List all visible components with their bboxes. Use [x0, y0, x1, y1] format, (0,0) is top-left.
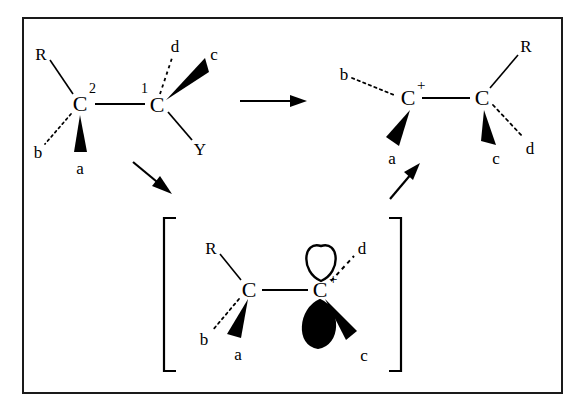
reactant-atom-c2: C [73, 93, 88, 115]
scan-artifact-right: ···· ········ ·· ····· [290, 0, 365, 3]
product-atom-c-right: C [475, 87, 490, 109]
reactant-label-a: a [76, 160, 84, 177]
intermediate-label-b: b [200, 331, 209, 348]
reactant-superscript-1: 1 [141, 82, 148, 96]
reactant-label-R: R [35, 46, 46, 63]
scan-artifact-left: · ·· ··· ·· [2, 0, 38, 3]
scan-artifact-strip: · ·· ··· ·· ···· ········ ·· ····· [0, 0, 586, 7]
product-label-b: b [340, 66, 349, 83]
intermediate-atom-c-left: C [242, 279, 257, 301]
intermediate-label-d: d [358, 240, 367, 257]
intermediate-label-c: c [360, 347, 368, 364]
product-label-a: a [388, 150, 396, 167]
product-label-R: R [520, 38, 531, 55]
reactant-label-d: d [171, 38, 180, 55]
product-label-c: c [492, 150, 500, 167]
reactant-label-Y: Y [194, 141, 206, 158]
reactant-label-c: c [210, 46, 218, 63]
product-atom-c-plus: C [401, 87, 416, 109]
product-label-d: d [526, 140, 535, 157]
intermediate-charge-plus: + [329, 272, 337, 287]
reactant-superscript-2: 2 [89, 82, 96, 96]
intermediate-label-a: a [234, 346, 242, 363]
figure-canvas: · ·· ··· ·· ···· ········ ·· ····· [0, 0, 586, 417]
intermediate-label-R: R [205, 240, 216, 257]
figure-border [22, 17, 563, 394]
product-charge-plus: + [417, 78, 425, 93]
reactant-atom-c1: C [150, 94, 165, 116]
intermediate-atom-c-right: C [313, 279, 328, 301]
reactant-label-b: b [34, 144, 43, 161]
